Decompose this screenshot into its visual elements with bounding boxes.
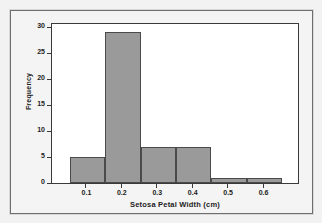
x-axis-title: Setosa Petal Width (cm) [51, 200, 299, 209]
x-tick-mark [263, 184, 264, 188]
x-tick-label: 0.2 [117, 189, 127, 196]
x-tick-mark [85, 184, 86, 188]
x-tick-mark [156, 184, 157, 188]
histogram-bar [105, 32, 140, 183]
y-tick-label: 15 [37, 100, 45, 107]
y-axis-tick-group: 051015202530 [11, 11, 51, 213]
histogram-bar [176, 147, 211, 183]
histogram-bar [70, 157, 105, 183]
x-tick-mark [192, 184, 193, 188]
y-tick-label: 30 [37, 22, 45, 29]
histogram-bar [247, 178, 282, 183]
plot-area [51, 23, 299, 184]
histogram-bar [141, 147, 176, 183]
y-tick-label: 5 [41, 152, 45, 159]
x-tick-label: 0.1 [82, 189, 92, 196]
y-tick-label: 20 [37, 74, 45, 81]
x-tick-label: 0.3 [152, 189, 162, 196]
histogram-bar [211, 178, 246, 183]
x-tick-mark [227, 184, 228, 188]
x-tick-label: 0.4 [188, 189, 198, 196]
y-tick-label: 25 [37, 48, 45, 55]
figure-frame: Frequency 051015202530 0.10.20.30.40.50.… [10, 10, 313, 214]
x-tick-label: 0.5 [223, 189, 233, 196]
x-tick-mark [121, 184, 122, 188]
histogram-bars [52, 24, 298, 183]
y-tick-label: 0 [41, 178, 45, 185]
y-tick-label: 10 [37, 126, 45, 133]
x-tick-label: 0.6 [259, 189, 269, 196]
